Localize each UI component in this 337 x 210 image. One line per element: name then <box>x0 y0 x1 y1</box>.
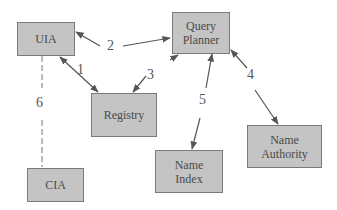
edge-4-planner-authority-top <box>231 50 247 68</box>
edge-label-4: 4 <box>247 68 254 82</box>
edge-5-planner-index-top <box>206 54 212 88</box>
edge-label-1: 1 <box>77 63 84 77</box>
edge-3-planner-registry-bottom <box>133 76 146 92</box>
edge-2-uia-planner-right <box>123 38 170 46</box>
edge-3-planner-registry-top <box>170 55 178 60</box>
node-name-index-line2: Index <box>175 172 202 186</box>
node-name-authority: Name Authority <box>247 125 322 168</box>
node-name-authority-line1: Name <box>270 133 299 147</box>
node-registry: Registry <box>91 93 157 137</box>
edge-4-planner-authority-bottom <box>255 90 278 124</box>
node-query-planner: Query Planner <box>172 12 230 54</box>
edge-label-2: 2 <box>107 39 114 53</box>
node-query-planner-line2: Planner <box>183 33 220 47</box>
node-cia: CIA <box>27 168 84 202</box>
node-uia: UIA <box>17 22 75 56</box>
node-name-authority-line2: Authority <box>261 147 308 161</box>
edge-label-3: 3 <box>147 68 154 82</box>
edge-label-5: 5 <box>199 93 206 107</box>
edge-5-planner-index-bottom <box>192 118 200 149</box>
node-cia-label: CIA <box>45 178 66 192</box>
node-registry-label: Registry <box>104 108 145 122</box>
node-name-index-line1: Name <box>175 158 204 172</box>
edge-2-uia-planner-left <box>76 32 100 46</box>
node-query-planner-line1: Query <box>186 19 216 33</box>
node-name-index: Name Index <box>155 150 223 193</box>
node-uia-label: UIA <box>35 32 56 46</box>
edge-label-6: 6 <box>36 96 43 110</box>
architecture-diagram: UIA Query Planner Registry Name Index Na… <box>0 0 337 210</box>
